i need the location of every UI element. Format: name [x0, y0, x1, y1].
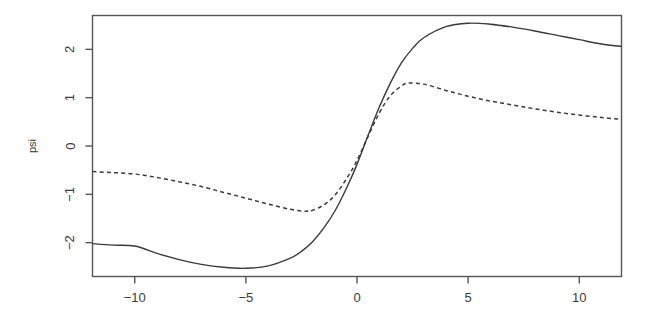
x-axis-tick-labels: −10−50510	[124, 290, 587, 305]
y-axis-ticks	[86, 49, 93, 242]
x-axis-ticks	[135, 277, 580, 284]
y-axis-title: psi	[26, 139, 38, 153]
solid-curve	[93, 23, 622, 268]
data-curves	[93, 23, 622, 268]
y-tick-label: −2	[63, 235, 78, 250]
plot-frame	[93, 16, 622, 277]
figure-container: −2−1012 −10−50510 psi	[0, 0, 652, 327]
y-axis-tick-labels: −2−1012	[63, 46, 78, 250]
x-tick-label: 0	[353, 290, 360, 305]
y-tick-label: 1	[63, 94, 78, 101]
dashed-curve	[93, 83, 622, 211]
x-tick-label: −10	[124, 290, 146, 305]
x-tick-label: −5	[238, 290, 253, 305]
y-tick-label: −1	[63, 187, 78, 202]
x-tick-label: 5	[465, 290, 472, 305]
plot-canvas: −2−1012 −10−50510 psi	[0, 0, 652, 327]
y-tick-label: 2	[63, 46, 78, 53]
x-tick-label: 10	[572, 290, 586, 305]
y-tick-label: 0	[63, 142, 78, 149]
